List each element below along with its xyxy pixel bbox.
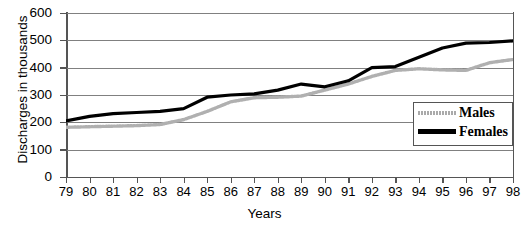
x-tick-label: 97: [478, 185, 500, 199]
legend: Males Females: [413, 102, 513, 146]
x-tick-label: 89: [290, 185, 312, 199]
legend-label-females: Females: [459, 124, 508, 140]
y-tick-label: 400: [12, 61, 52, 75]
x-axis-title: Years: [0, 206, 529, 221]
y-tick-label: 300: [12, 88, 52, 102]
legend-swatch-females-icon: [418, 129, 456, 134]
x-tick-label: 85: [196, 185, 218, 199]
x-tick-mark: [231, 177, 232, 183]
x-tick-label: 93: [384, 185, 406, 199]
x-tick-label: 82: [126, 185, 148, 199]
x-tick-label: 92: [361, 185, 383, 199]
x-tick-mark: [137, 177, 138, 183]
x-tick-label: 86: [220, 185, 242, 199]
legend-swatch-males-icon: [418, 111, 456, 115]
x-tick-mark: [419, 177, 420, 183]
x-tick-mark: [113, 177, 114, 183]
x-tick-label: 84: [173, 185, 195, 199]
x-tick-mark: [278, 177, 279, 183]
x-tick-label: 98: [502, 185, 524, 199]
x-tick-mark: [395, 177, 396, 183]
x-tick-mark: [90, 177, 91, 183]
y-tick-label: 200: [12, 115, 52, 129]
x-tick-mark: [442, 177, 443, 183]
x-tick-label: 95: [431, 185, 453, 199]
x-tick-mark: [489, 177, 490, 183]
x-tick-label: 96: [455, 185, 477, 199]
x-tick-label: 88: [267, 185, 289, 199]
legend-label-males: Males: [459, 105, 495, 121]
x-tick-label: 90: [314, 185, 336, 199]
y-tick-label: 600: [12, 6, 52, 20]
x-tick-label: 91: [337, 185, 359, 199]
x-tick-label: 81: [102, 185, 124, 199]
x-tick-label: 87: [243, 185, 265, 199]
legend-item-females: Females: [414, 122, 512, 141]
x-tick-mark: [348, 177, 349, 183]
x-tick-mark: [160, 177, 161, 183]
x-tick-mark: [301, 177, 302, 183]
x-tick-label: 94: [408, 185, 430, 199]
x-tick-mark: [254, 177, 255, 183]
x-tick-label: 79: [55, 185, 77, 199]
series-lines: [66, 13, 513, 177]
x-tick-mark: [207, 177, 208, 183]
x-tick-label: 83: [149, 185, 171, 199]
line-chart: Discharges in thousands Years 0100200300…: [0, 0, 529, 235]
x-tick-label: 80: [79, 185, 101, 199]
x-tick-mark: [466, 177, 467, 183]
y-tick-label: 100: [12, 143, 52, 157]
x-tick-mark: [184, 177, 185, 183]
y-tick-label: 0: [12, 170, 52, 184]
y-tick-label: 500: [12, 33, 52, 47]
legend-item-males: Males: [414, 103, 512, 122]
x-tick-mark: [372, 177, 373, 183]
x-tick-mark: [66, 177, 67, 183]
x-tick-mark: [325, 177, 326, 183]
x-tick-mark: [513, 177, 514, 183]
